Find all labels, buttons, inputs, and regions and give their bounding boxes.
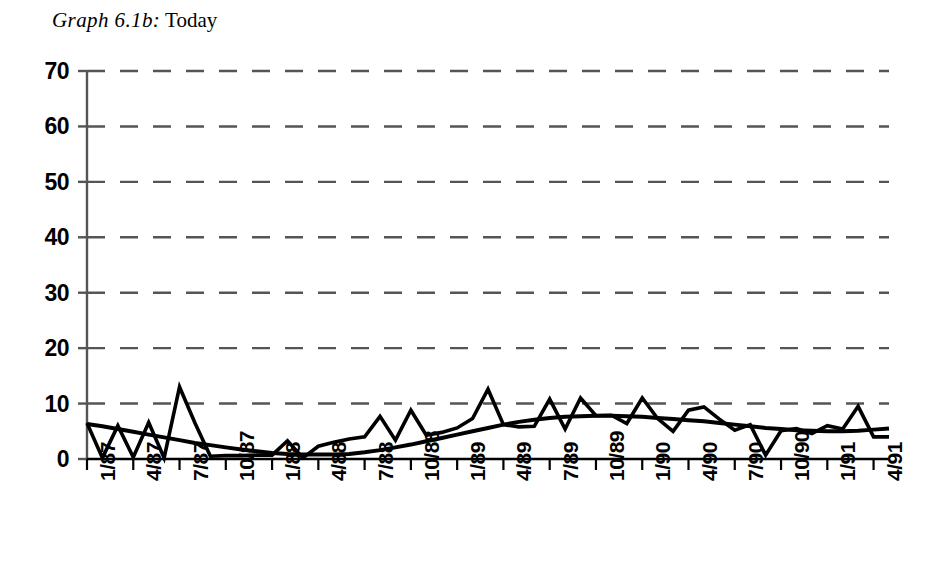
axes-group [87, 71, 889, 459]
x-tick-label: 1/90 [651, 442, 675, 481]
x-tick-label: 7/89 [559, 442, 583, 481]
x-tick-label: 4/89 [512, 442, 536, 481]
y-tick-label: 50 [9, 168, 69, 195]
y-tick-label: 30 [9, 279, 69, 306]
y-tick-label: 40 [9, 224, 69, 251]
x-tick-label: 1/87 [96, 442, 120, 481]
y-tick-label: 60 [9, 113, 69, 140]
x-tick-label: 7/88 [374, 442, 398, 481]
x-tick-label: 4/87 [142, 442, 166, 481]
x-tick-label: 4/88 [327, 442, 351, 481]
x-tick-label: 10/88 [420, 431, 444, 481]
x-tick-label: 4/91 [883, 442, 907, 481]
x-tick-label: 1/91 [836, 442, 860, 481]
x-tick-label: 7/87 [189, 442, 213, 481]
gridlines-group [87, 71, 889, 404]
figure-root: Graph 6.1b: Today 010203040506070 1/874/… [0, 0, 935, 564]
y-tick-label: 0 [9, 446, 69, 473]
x-tick-label: 1/88 [281, 442, 305, 481]
y-tick-label: 70 [9, 58, 69, 85]
x-tick-label: 4/90 [698, 442, 722, 481]
x-tick-label: 1/89 [466, 442, 490, 481]
y-tick-label: 10 [9, 390, 69, 417]
x-tick-label: 10/87 [235, 431, 259, 481]
y-tick-label: 20 [9, 335, 69, 362]
x-tick-label: 10/90 [790, 431, 814, 481]
x-tick-label: 7/90 [744, 442, 768, 481]
x-tick-label: 10/89 [605, 431, 629, 481]
